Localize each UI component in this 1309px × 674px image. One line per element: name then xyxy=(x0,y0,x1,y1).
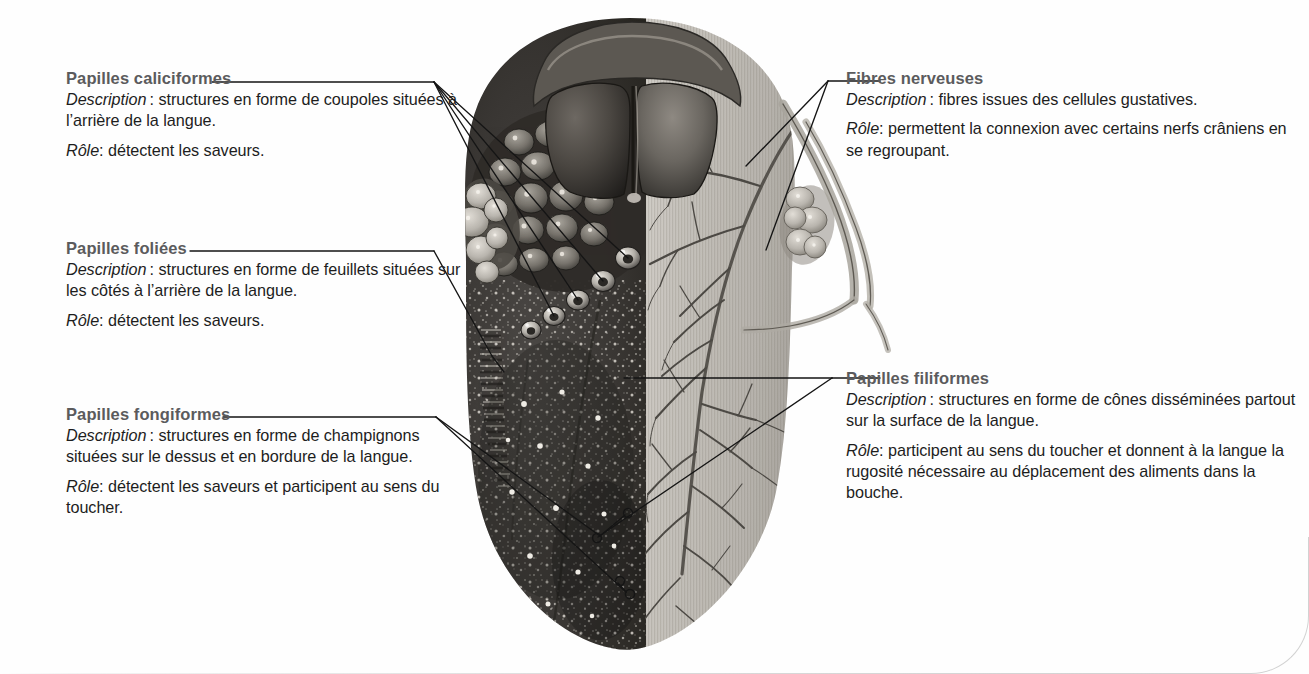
callout-role-foliees: Rôle: détectent les saveurs. xyxy=(66,310,466,331)
colon: : xyxy=(99,141,108,159)
callout-description-filiformes: Description : structures en forme de côn… xyxy=(846,389,1296,431)
callout-description-caliciformes: Description : structures en forme de cou… xyxy=(66,89,466,131)
colon: : xyxy=(99,477,108,495)
description-label: Description xyxy=(66,260,146,278)
role-text: participent au sens du toucher et donnen… xyxy=(846,441,1284,501)
role-label: Rôle xyxy=(66,141,99,159)
role-text: détectent les saveurs. xyxy=(108,311,264,329)
description-label: Description xyxy=(66,426,146,444)
colon: : xyxy=(146,90,158,108)
colon: : xyxy=(146,426,158,444)
callout-papilles-caliciformes: Papilles caliciformes Description : stru… xyxy=(66,68,466,161)
callout-title-foliees: Papilles foliées xyxy=(66,238,466,258)
leader-endpoint-markers xyxy=(593,509,635,599)
description-label: Description xyxy=(846,390,926,408)
role-label: Rôle xyxy=(66,477,99,495)
colon: : xyxy=(99,311,108,329)
colon: : xyxy=(879,119,888,137)
callout-description-fibres: Description : fibres issues des cellules… xyxy=(846,89,1306,110)
callout-papilles-filiformes: Papilles filiformes Description : struct… xyxy=(846,368,1296,503)
callout-description-fongiformes: Description : structures en forme de cha… xyxy=(66,425,466,467)
description-text: fibres issues des cellules gustatives. xyxy=(939,90,1198,108)
callout-fibres-nerveuses: Fibres nerveuses Description : fibres is… xyxy=(846,68,1306,161)
description-label: Description xyxy=(846,90,926,108)
description-label: Description xyxy=(66,90,146,108)
role-label: Rôle xyxy=(846,119,879,137)
colon: : xyxy=(146,260,158,278)
callout-papilles-foliees: Papilles foliées Description : structure… xyxy=(66,238,466,331)
callout-title-fongiformes: Papilles fongiformes xyxy=(66,404,466,424)
callout-role-fibres: Rôle: permettent la connexion avec certa… xyxy=(846,118,1306,160)
callout-papilles-fongiformes: Papilles fongiformes Description : struc… xyxy=(66,404,466,518)
callout-role-filiformes: Rôle: participent au sens du toucher et … xyxy=(846,440,1296,504)
role-label: Rôle xyxy=(66,311,99,329)
colon: : xyxy=(926,90,938,108)
colon: : xyxy=(879,441,888,459)
role-text: permettent la connexion avec certains ne… xyxy=(846,119,1287,158)
role-label: Rôle xyxy=(846,441,879,459)
role-text: détectent les saveurs. xyxy=(108,141,264,159)
callout-title-filiformes: Papilles filiformes xyxy=(846,368,1296,388)
role-text: détectent les saveurs et participent au … xyxy=(66,477,440,516)
colon: : xyxy=(926,390,938,408)
callout-title-caliciformes: Papilles caliciformes xyxy=(66,68,466,88)
callout-role-caliciformes: Rôle: détectent les saveurs. xyxy=(66,140,466,161)
figure-canvas: Papilles caliciformes Description : stru… xyxy=(0,0,1309,674)
callout-title-fibres: Fibres nerveuses xyxy=(846,68,1306,88)
callout-role-fongiformes: Rôle: détectent les saveurs et participe… xyxy=(66,476,466,518)
callout-description-foliees: Description : structures en forme de feu… xyxy=(66,259,466,301)
